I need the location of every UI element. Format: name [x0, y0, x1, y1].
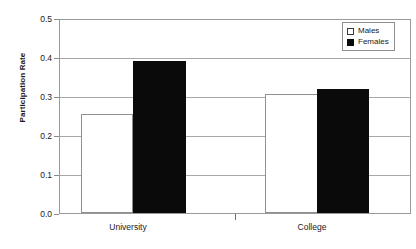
- legend-swatch-females-icon: [347, 39, 354, 46]
- x-category-label-college: College: [257, 222, 367, 232]
- bar-university-females: [133, 61, 186, 213]
- bar-college-females: [317, 89, 369, 213]
- category-separator-tick: [235, 214, 236, 220]
- legend-label-males: Males: [358, 27, 379, 35]
- y-axis-tick-mark: [54, 214, 59, 215]
- legend-label-females: Females: [358, 38, 389, 46]
- y-tick-label: 0.2: [26, 132, 52, 141]
- y-tick-label: 0.3: [26, 93, 52, 102]
- legend-item-females: Females: [347, 37, 389, 47]
- gridline: [60, 58, 410, 59]
- bar-university-males: [81, 114, 133, 213]
- legend-swatch-males-icon: [347, 28, 354, 35]
- bar-chart: Participation Rate 0.5 0.4 0.3 0.2 0.1 0…: [0, 0, 416, 249]
- y-axis-tick-labels: 0.5 0.4 0.3 0.2 0.1 0.0: [24, 0, 52, 249]
- y-tick-label: 0.5: [26, 15, 52, 24]
- legend-item-males: Males: [347, 26, 389, 36]
- y-tick-label: 0.0: [26, 210, 52, 219]
- x-category-label-university: University: [73, 222, 183, 232]
- y-tick-label: 0.4: [26, 54, 52, 63]
- legend: Males Females: [342, 22, 395, 51]
- bar-college-males: [265, 94, 318, 213]
- y-tick-label: 0.1: [26, 171, 52, 180]
